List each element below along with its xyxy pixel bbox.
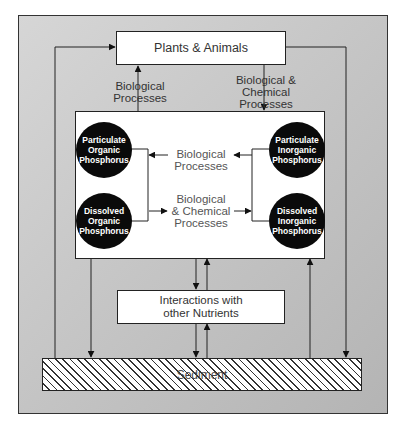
- inner-biochem-processes-label: Biological & Chemical Processes: [166, 193, 236, 229]
- label-line: & Chemical: [166, 205, 236, 217]
- bio-processes-up-label: Biological Processes: [108, 80, 172, 104]
- node-label: Dissolved Organic Phosphorus: [76, 206, 132, 236]
- node-label: Particulate Inorganic Phosphorus: [269, 135, 325, 165]
- particulate-inorganic-phosphorus-node: Particulate Inorganic Phosphorus: [269, 122, 325, 178]
- label-line: Processes: [168, 160, 234, 172]
- label-line: Biological: [166, 193, 236, 205]
- dissolved-organic-phosphorus-node: Dissolved Organic Phosphorus: [76, 193, 132, 249]
- label-line: Processes: [166, 217, 236, 229]
- label-line: Biological &: [216, 74, 316, 86]
- node-label: Particulate Organic Phosphorus: [76, 135, 132, 165]
- inner-bio-processes-label: Biological Processes: [168, 148, 234, 172]
- interactions-label: Interactions with other Nutrients: [158, 294, 244, 320]
- dissolved-inorganic-phosphorus-node: Dissolved Inorganic Phosphorus: [269, 193, 325, 249]
- plants-animals-label: Plants & Animals: [154, 42, 248, 55]
- interactions-nutrients-node: Interactions with other Nutrients: [117, 290, 285, 324]
- biochem-processes-down-label: Biological & Chemical Processes: [216, 74, 316, 110]
- label-line: Biological: [168, 148, 234, 160]
- label-line: Biological: [108, 80, 172, 92]
- sediment-label: Sediment: [177, 368, 228, 382]
- label-line: Processes: [108, 92, 172, 104]
- plants-animals-node: Plants & Animals: [116, 31, 286, 65]
- sediment-node: Sediment: [42, 358, 362, 391]
- node-label: Dissolved Inorganic Phosphorus: [269, 206, 325, 236]
- particulate-organic-phosphorus-node: Particulate Organic Phosphorus: [76, 122, 132, 178]
- label-line: Chemical Processes: [216, 86, 316, 110]
